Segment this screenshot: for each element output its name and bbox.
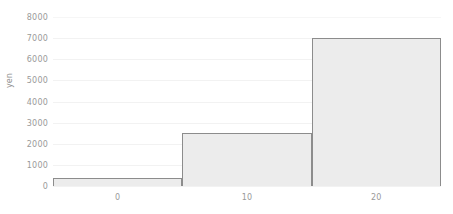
y-tick-label: 0 bbox=[43, 182, 48, 191]
x-tick-label: 20 bbox=[371, 193, 382, 202]
y-tick-label: 7000 bbox=[27, 34, 48, 43]
x-axis-tick-labels: 01020 bbox=[53, 193, 441, 207]
y-tick-label: 8000 bbox=[27, 13, 48, 22]
y-tick-label: 2000 bbox=[27, 139, 48, 148]
chart-figure: yen 010002000300040005000600070008000 01… bbox=[0, 0, 453, 214]
y-axis-tick-labels: 010002000300040005000600070008000 bbox=[0, 17, 48, 186]
x-tick-label: 10 bbox=[242, 193, 253, 202]
gridline bbox=[53, 17, 441, 18]
y-tick-label: 4000 bbox=[27, 97, 48, 106]
y-tick-label: 1000 bbox=[27, 160, 48, 169]
y-tick-label: 3000 bbox=[27, 118, 48, 127]
gridline bbox=[53, 186, 441, 187]
y-tick-label: 5000 bbox=[27, 76, 48, 85]
x-tick-label: 0 bbox=[115, 193, 120, 202]
y-tick-label: 6000 bbox=[27, 55, 48, 64]
bar bbox=[312, 38, 441, 186]
bar bbox=[182, 133, 311, 186]
plot-area bbox=[53, 17, 441, 186]
bar bbox=[53, 178, 182, 186]
